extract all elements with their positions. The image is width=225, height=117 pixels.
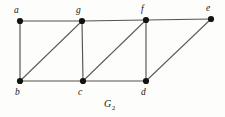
graph-vertex-c xyxy=(80,78,86,84)
caption-subscript-text: 2 xyxy=(112,104,115,111)
vertex-label-g: g xyxy=(76,5,81,15)
edges-group xyxy=(20,19,211,81)
graph-edge-c-f xyxy=(83,20,146,81)
graph-edge-g-f xyxy=(82,20,146,21)
caption-main-text: G xyxy=(104,98,111,109)
vertex-label-b: b xyxy=(15,87,20,97)
graph-vertex-a xyxy=(17,18,23,24)
graph-canvas: agfebcd G 2 xyxy=(0,0,225,117)
vertex-label-e: e xyxy=(206,3,210,13)
graph-edge-d-e xyxy=(146,19,211,81)
vertex-labels-group: agfebcd xyxy=(14,3,210,97)
vertex-label-a: a xyxy=(14,5,19,15)
vertex-label-d: d xyxy=(141,87,146,97)
figure-container: agfebcd G 2 xyxy=(0,0,225,117)
graph-vertex-b xyxy=(17,78,23,84)
graph-edge-b-g xyxy=(20,21,82,81)
graph-edge-f-e xyxy=(146,19,211,20)
graph-vertex-f xyxy=(143,17,149,23)
graph-vertex-g xyxy=(79,18,85,24)
vertex-label-c: c xyxy=(78,87,83,97)
graph-vertex-e xyxy=(208,16,214,22)
figure-caption: G 2 xyxy=(104,98,115,111)
graph-edge-g-c xyxy=(82,21,83,81)
vertex-label-f: f xyxy=(141,4,145,14)
graph-vertex-d xyxy=(143,78,149,84)
